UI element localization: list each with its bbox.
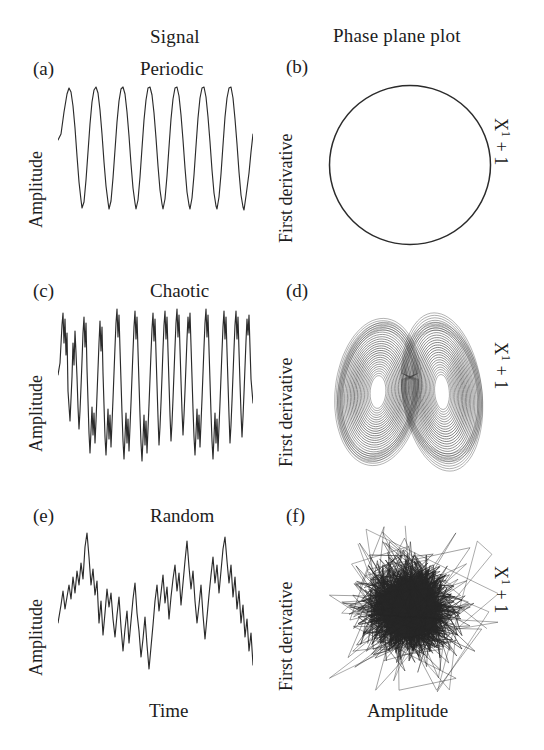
y-axis-label-amplitude-c: Amplitude	[26, 375, 47, 452]
panel-letter-e: (e)	[33, 505, 54, 527]
random-scribble-blob	[322, 522, 498, 697]
plot-random-phase	[322, 522, 498, 697]
chaotic-signal-trace	[58, 303, 253, 463]
y-axis-label-amplitude-e: Amplitude	[26, 599, 47, 676]
y-axis-label-first-derivative-b: First derivative	[276, 134, 297, 243]
panel-letter-f: (f)	[286, 505, 305, 527]
scribble-paths	[329, 526, 498, 692]
column-header-phase-plane: Phase plane plot	[333, 25, 461, 47]
random-signal-trace	[58, 527, 253, 687]
x-axis-label-amplitude: Amplitude	[367, 700, 448, 722]
panel-title-random: Random	[150, 505, 214, 527]
periodic-signal-trace	[58, 82, 253, 212]
plot-periodic-signal	[58, 82, 253, 212]
panel-letter-a: (a)	[33, 58, 54, 80]
y-axis-label-amplitude-a: Amplitude	[26, 151, 47, 228]
butterfly-strange-attractor	[322, 300, 498, 480]
plot-random-signal	[58, 527, 253, 687]
panel-title-chaotic: Chaotic	[150, 280, 209, 302]
x-axis-label-time: Time	[149, 700, 188, 722]
plot-chaotic-phase	[322, 300, 498, 480]
figure-canvas: Signal Phase plane plot (a) Periodic Amp…	[0, 0, 544, 750]
y-axis-label-first-derivative-d: First derivative	[276, 358, 297, 467]
panel-title-periodic: Periodic	[140, 58, 203, 80]
panel-letter-b: (b)	[286, 56, 308, 78]
panel-letter-d: (d)	[286, 280, 308, 302]
plot-chaotic-signal	[58, 303, 253, 463]
y-axis-label-first-derivative-f: First derivative	[276, 582, 297, 691]
panel-letter-c: (c)	[33, 280, 54, 302]
plot-periodic-phase	[325, 80, 495, 250]
column-header-signal: Signal	[150, 26, 200, 48]
limit-cycle-circle	[325, 80, 495, 250]
